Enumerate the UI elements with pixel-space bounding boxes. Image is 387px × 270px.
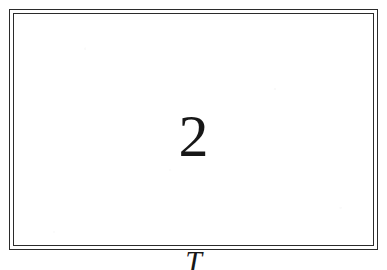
caption-clip-region: T: [0, 252, 387, 270]
figure-frame-inner-rule: 2: [13, 13, 375, 247]
figure-number-label: 2: [14, 106, 374, 166]
scanned-page: 2 T: [0, 0, 387, 270]
figure-frame-outer-rule: 2: [9, 9, 378, 250]
caption-symbol-T: T: [0, 252, 387, 270]
